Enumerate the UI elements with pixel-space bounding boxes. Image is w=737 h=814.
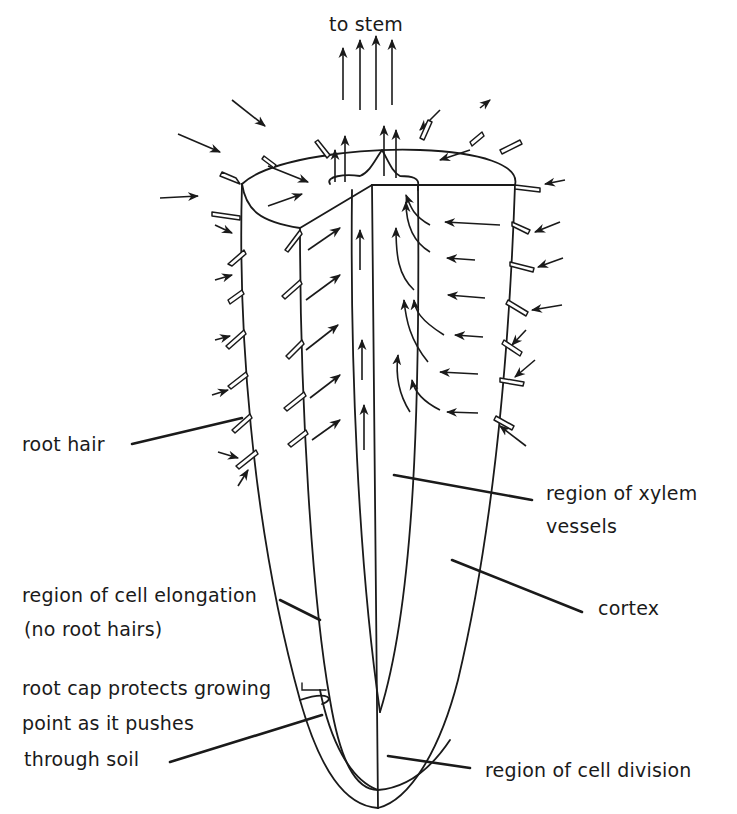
arrow-icon — [308, 228, 340, 250]
label-rootcap-line3: through soil — [24, 743, 139, 776]
arrow-icon — [215, 225, 232, 233]
outer-left-edge — [241, 184, 378, 808]
arrow-icon — [215, 275, 232, 280]
label-to-stem: to stem — [329, 8, 403, 41]
label-root-hair: root hair — [22, 428, 105, 461]
root-hair-icon — [512, 222, 530, 234]
root-hair-icon — [282, 280, 302, 299]
arrow-icon — [440, 372, 478, 374]
leader-rootcap-bracket — [302, 683, 326, 690]
arrow-icon — [218, 452, 238, 458]
arrow-icon — [397, 355, 410, 412]
arrow-icon — [268, 194, 302, 206]
root-hair-icon — [470, 132, 484, 146]
stele-top — [329, 150, 418, 190]
leader-cortex — [452, 560, 582, 612]
leader-root-hair — [132, 418, 242, 444]
label-rootcap-line2: point as it pushes — [22, 707, 194, 740]
arrow-icon — [445, 222, 500, 225]
stele-arrows-right — [396, 195, 444, 412]
label-elongation-line2: (no root hairs) — [24, 613, 162, 646]
arrow-icon — [447, 412, 478, 413]
arrow-icon — [215, 336, 230, 340]
label-xylem-line2: vessels — [546, 510, 617, 543]
root-hair-icon — [220, 172, 240, 184]
root-hair-icon — [494, 416, 514, 430]
arrow-icon — [448, 295, 485, 298]
root-hair-icon — [420, 120, 432, 140]
label-elongation-line1: region of cell elongation — [22, 579, 257, 612]
arrow-icon — [447, 258, 475, 260]
cortex-left-edge — [300, 228, 378, 790]
root-hair-icon — [228, 372, 248, 389]
label-cell-division: region of cell division — [485, 754, 692, 787]
arrow-icon — [545, 180, 565, 184]
arrow-icon — [178, 134, 220, 152]
root-hair-icon — [515, 185, 540, 192]
root-hair-icon — [500, 140, 522, 154]
root-hair-icon — [228, 250, 246, 266]
arrow-icon — [160, 196, 198, 198]
arrow-icon — [532, 305, 562, 310]
label-cortex: cortex — [598, 592, 659, 625]
arrow-icon — [455, 335, 483, 337]
root-hair-icon — [226, 330, 246, 349]
arrow-icon — [512, 330, 526, 345]
arrow-icon — [480, 100, 490, 108]
leader-xylem — [394, 475, 532, 500]
arrow-icon — [312, 420, 340, 440]
root-hairs-right — [420, 120, 540, 430]
arrow-icon — [232, 100, 265, 126]
label-xylem-line1: region of xylem — [546, 477, 697, 510]
arrow-icon — [306, 275, 340, 300]
arrow-icon — [238, 470, 248, 486]
root-hair-icon — [510, 262, 534, 272]
arrow-icon — [515, 360, 535, 377]
root-hair-icon — [212, 212, 240, 220]
arrow-icon — [310, 375, 340, 398]
outer-right-edge — [378, 185, 515, 808]
root-cap-outer — [300, 696, 329, 704]
label-rootcap-line1: root cap protects growing — [22, 672, 271, 705]
leader-elongation — [280, 600, 320, 620]
arrow-icon — [212, 390, 228, 395]
arrow-icon — [396, 228, 414, 290]
arrow-icon — [306, 325, 338, 350]
arrow-icon — [538, 258, 563, 267]
arrow-icon — [535, 222, 560, 232]
root-body — [241, 150, 515, 808]
central-line — [372, 185, 378, 808]
